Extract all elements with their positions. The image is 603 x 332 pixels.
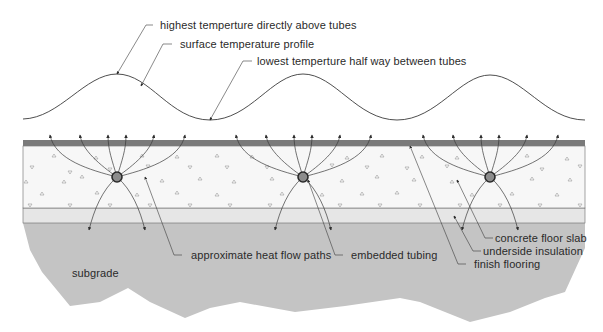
label-embedded-tubing: embedded tubing (351, 249, 438, 261)
surface-temperature-profile (23, 74, 585, 120)
label-highest-temperature: highest temperture directly above tubes (160, 19, 357, 31)
label-heat-flow-paths: approximate heat flow paths (191, 249, 331, 261)
label-lowest-temperature: lowest temperture half way between tubes (257, 55, 466, 67)
label-surface-temperature-profile: surface temperature profile (180, 38, 314, 50)
label-underside-insulation: underside insulation (483, 245, 583, 257)
leader-lowest-temp (210, 61, 252, 120)
label-finish-flooring: finish flooring (474, 258, 540, 270)
tube-2 (298, 172, 308, 182)
leader-highest-temp (117, 25, 153, 74)
label-concrete-floor-slab: concrete floor slab (495, 232, 587, 244)
label-subgrade: subgrade (72, 267, 119, 279)
finish-flooring-layer (23, 140, 585, 146)
leader-surface-profile (141, 44, 172, 86)
underside-insulation-layer (23, 208, 585, 223)
tube-1 (112, 172, 122, 182)
tube-3 (485, 172, 495, 182)
